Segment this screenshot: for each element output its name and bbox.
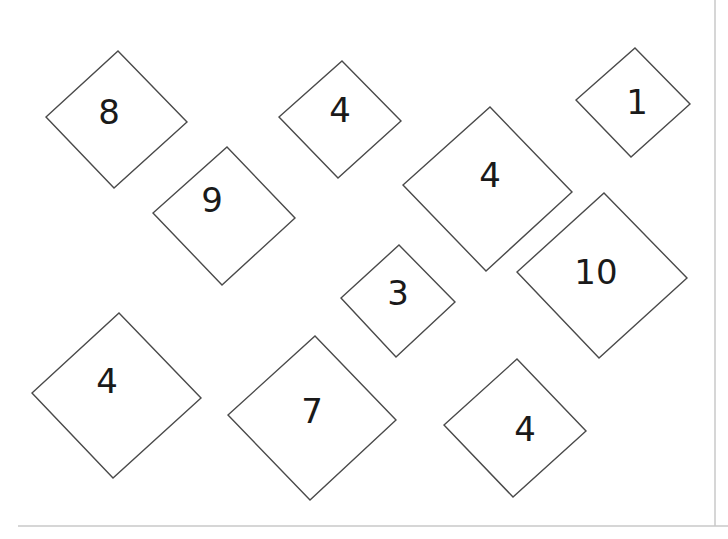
diamond-number-label: 1	[626, 82, 648, 122]
number-diamond: 7	[228, 336, 396, 500]
number-diamond: 9	[153, 147, 295, 285]
diamond-number-label: 9	[201, 180, 223, 220]
diamond-shape	[153, 147, 295, 285]
number-diamond: 1	[576, 48, 690, 157]
diamond-number-label: 7	[301, 391, 323, 431]
diamond-number-label: 3	[387, 273, 409, 313]
number-diamond: 4	[444, 359, 586, 497]
number-diamond: 3	[341, 245, 455, 357]
diamond-number-label: 10	[574, 252, 617, 292]
diamond-number-label: 4	[514, 409, 536, 449]
worksheet-canvas: 84194310474	[0, 0, 728, 539]
diamond-group: 84194310474	[32, 48, 690, 500]
number-diamond: 4	[32, 313, 201, 478]
number-diamond: 8	[46, 51, 187, 188]
number-diamond: 4	[279, 61, 401, 178]
diamond-number-label: 8	[98, 92, 120, 132]
diamond-number-label: 4	[329, 90, 351, 130]
diamond-number-label: 4	[96, 361, 118, 401]
diamond-number-label: 4	[479, 155, 501, 195]
